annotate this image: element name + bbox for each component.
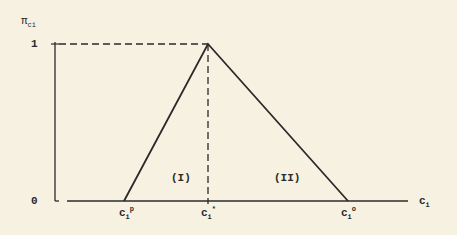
- y-axis-label: πci: [21, 16, 36, 27]
- tick-cstar-sup: *: [212, 205, 216, 213]
- y-axis-label-sub: ci: [28, 21, 36, 29]
- y-axis-label-main: π: [21, 15, 28, 27]
- region-label-2: (II): [274, 173, 300, 184]
- tick-co-sub: i: [348, 213, 352, 221]
- x-axis-label: ci: [419, 196, 430, 207]
- y-tick-label-0: 0: [31, 196, 38, 207]
- tick-cp-sup: p: [130, 205, 134, 213]
- x-tick-label-co: cio: [341, 208, 356, 219]
- x-axis-label-sub: i: [426, 201, 430, 209]
- tick-co-sup: o: [352, 205, 356, 213]
- chart-canvas: [0, 0, 457, 235]
- x-tick-label-cp: cip: [119, 208, 134, 219]
- region-label-1: (I): [171, 173, 191, 184]
- tick-cp-sub: i: [126, 213, 130, 221]
- x-axis-label-main: c: [419, 195, 426, 207]
- x-tick-label-cstar: ci*: [201, 208, 216, 219]
- tick-cstar-sub: i: [208, 213, 212, 221]
- tick-co-main: c: [341, 207, 348, 219]
- tick-cstar-main: c: [201, 207, 208, 219]
- tick-cp-main: c: [119, 207, 126, 219]
- membership-triangle: [124, 44, 348, 201]
- y-tick-label-1: 1: [31, 39, 38, 50]
